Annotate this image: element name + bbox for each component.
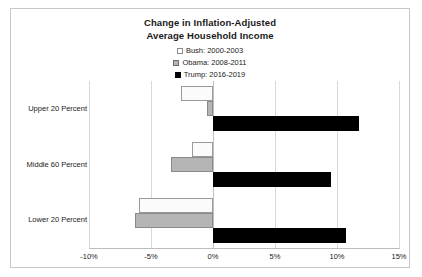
legend-item-trump: Trump: 2016-2019 — [11, 69, 409, 81]
chart-title: Change in Inflation-Adjusted Average Hou… — [11, 16, 409, 42]
legend-item-bush: Bush: 2000-2003 — [11, 45, 409, 57]
bar-obama-3 — [135, 213, 213, 228]
x-tick-label-1: -5% — [144, 252, 157, 261]
chart-container: Change in Inflation-Adjusted Average Hou… — [10, 8, 410, 268]
legend-label-bush: Bush: 2000-2003 — [186, 46, 243, 55]
legend-label-trump: Trump: 2016-2019 — [184, 70, 245, 79]
gridline-15 — [399, 81, 400, 248]
bar-trump-2 — [213, 172, 331, 187]
gridline-0 — [213, 81, 214, 248]
x-tick-label-3: 5% — [270, 252, 281, 261]
bar-obama-1 — [207, 101, 213, 116]
bar-bush-2 — [192, 142, 213, 157]
legend-label-obama: Obama: 2008-2011 — [182, 58, 246, 67]
x-tick-label-5: 15% — [391, 252, 406, 261]
category-label-1: Upper 20 Percent — [15, 104, 87, 113]
chart-title-line-2: Average Household Income — [11, 29, 409, 42]
bar-bush-1 — [181, 86, 213, 101]
category-label-3: Lower 20 Percent — [15, 215, 87, 224]
legend-swatch-trump-icon — [175, 72, 181, 78]
bar-obama-2 — [171, 157, 213, 172]
chart-title-line-1: Change in Inflation-Adjusted — [11, 16, 409, 29]
x-tick-label-2: 0% — [208, 252, 219, 261]
bar-trump-3 — [213, 228, 346, 243]
category-label-2: Middle 60 Percent — [15, 160, 87, 169]
chart-legend: Bush: 2000-2003 Obama: 2008-2011 Trump: … — [11, 45, 409, 81]
x-axis-line — [89, 248, 400, 249]
legend-swatch-bush-icon — [177, 48, 183, 54]
bar-bush-3 — [139, 198, 213, 213]
x-tick-label-0: -10% — [80, 252, 98, 261]
plot-area — [89, 81, 399, 248]
x-tick-label-4: 10% — [329, 252, 344, 261]
gridline-10 — [337, 81, 338, 248]
legend-swatch-obama-icon — [173, 60, 179, 66]
bar-trump-1 — [213, 116, 359, 131]
legend-item-obama: Obama: 2008-2011 — [11, 57, 409, 69]
gridline-5 — [275, 81, 276, 248]
gridline--10 — [89, 81, 90, 248]
